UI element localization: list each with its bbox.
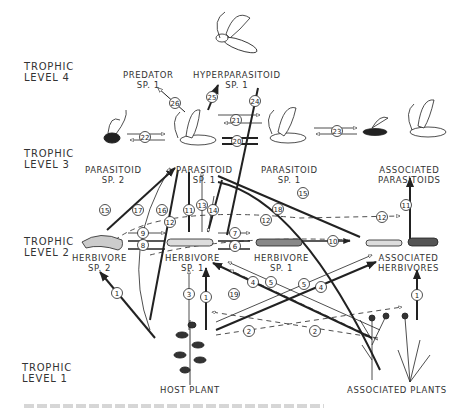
interaction-badge-11: 11 bbox=[401, 200, 412, 211]
parasitoid-sp1-left-line1: PARASITOID bbox=[176, 165, 233, 175]
svg-text:15: 15 bbox=[299, 190, 308, 198]
herbivore-sp1-left-line1: HERBIVORE bbox=[165, 253, 220, 263]
herbivore-sp2-line1: HERBIVORE bbox=[72, 253, 127, 263]
herbivore-sp2-caterpillar-icon bbox=[82, 235, 123, 250]
svg-text:14: 14 bbox=[209, 207, 218, 215]
host-plant-icon bbox=[174, 320, 206, 385]
svg-text:2: 2 bbox=[247, 328, 251, 336]
food-web-diagram: 1112234455678910111112121213141515161718… bbox=[0, 0, 474, 414]
interaction-badge-7: 7 bbox=[230, 228, 241, 239]
interaction-badge-3: 3 bbox=[184, 289, 195, 300]
svg-text:4: 4 bbox=[319, 284, 324, 292]
herbivore-sp1-left-line2: SP. 1 bbox=[165, 263, 220, 273]
interaction-badge-12: 12 bbox=[165, 217, 176, 228]
interaction-badge-8: 8 bbox=[138, 240, 149, 251]
svg-text:26: 26 bbox=[171, 100, 180, 108]
parasitoid-sp1-right-wasp-icon bbox=[268, 108, 306, 144]
interaction-badge-4: 4 bbox=[316, 282, 327, 293]
interaction-badge-12: 12 bbox=[261, 215, 272, 226]
associated-parasitoids-line1: ASSOCIATED bbox=[378, 165, 441, 175]
svg-text:11: 11 bbox=[185, 207, 194, 215]
interaction-badge-26: 26 bbox=[170, 98, 181, 109]
svg-text:13: 13 bbox=[198, 202, 207, 210]
svg-text:4: 4 bbox=[251, 279, 256, 287]
svg-text:10: 10 bbox=[329, 238, 338, 246]
associated-parasitoids-label: ASSOCIATED PARASITOIDS bbox=[378, 165, 441, 185]
associated-plants-label: ASSOCIATED PLANTS bbox=[347, 385, 447, 395]
associated-herbivores-label: ASSOCIATED HERBIVORES bbox=[378, 253, 439, 273]
interaction-badge-6: 6 bbox=[230, 241, 241, 252]
svg-text:15: 15 bbox=[101, 207, 110, 215]
svg-text:3: 3 bbox=[187, 291, 191, 299]
interaction-badge-15: 15 bbox=[100, 205, 111, 216]
interaction-badge-15: 15 bbox=[298, 188, 309, 199]
svg-text:5: 5 bbox=[302, 281, 306, 289]
svg-text:17: 17 bbox=[134, 207, 143, 215]
svg-text:24: 24 bbox=[251, 98, 260, 106]
herbivore-sp1-right-label: HERBIVORE SP. 1 bbox=[254, 253, 309, 273]
interaction-badge-5: 5 bbox=[266, 277, 277, 288]
svg-text:22: 22 bbox=[141, 134, 150, 142]
hyperparasitoid-line1: HYPERPARASITOID bbox=[193, 70, 281, 80]
interaction-badge-22: 22 bbox=[140, 132, 151, 143]
herbivore-sp1-right-caterpillar-icon bbox=[256, 239, 302, 246]
host-plant-line1: HOST PLANT bbox=[160, 385, 220, 395]
svg-text:25: 25 bbox=[208, 94, 217, 102]
svg-text:8: 8 bbox=[141, 242, 145, 250]
svg-text:1: 1 bbox=[115, 290, 119, 298]
interaction-badge-10: 10 bbox=[328, 236, 339, 247]
svg-text:20: 20 bbox=[233, 138, 242, 146]
predator-line1: PREDATOR bbox=[123, 70, 174, 80]
parasitoid-sp2-line1: PARASITOID bbox=[85, 165, 142, 175]
parasitoid-sp1-left-wasp-icon bbox=[174, 110, 216, 145]
parasitoid-sp2-wasp-icon bbox=[104, 110, 126, 143]
svg-text:9: 9 bbox=[141, 230, 145, 238]
interaction-badge-1: 1 bbox=[201, 292, 212, 303]
parasitoid-sp1-left-label: PARASITOID SP. 1 bbox=[176, 165, 233, 185]
svg-text:12: 12 bbox=[378, 214, 387, 222]
interaction-badge-24: 24 bbox=[250, 96, 261, 107]
host-plant-label: HOST PLANT bbox=[160, 385, 220, 395]
associated-parasitoid-light-wasp-icon bbox=[408, 100, 446, 137]
predator-line2: SP. 1 bbox=[123, 80, 174, 90]
interaction-badge-13: 13 bbox=[197, 200, 208, 211]
interaction-badge-1: 1 bbox=[112, 288, 123, 299]
svg-text:19: 19 bbox=[230, 291, 239, 299]
interaction-badge-4: 4 bbox=[248, 277, 259, 288]
interaction-badge-25: 25 bbox=[207, 92, 218, 103]
svg-text:7: 7 bbox=[233, 230, 237, 238]
interaction-badge-16: 16 bbox=[157, 205, 168, 216]
interaction-badge-20: 20 bbox=[232, 136, 243, 147]
associated-parasitoid-dark-wasp-icon bbox=[363, 117, 388, 135]
svg-text:11: 11 bbox=[402, 202, 411, 210]
interaction-badge-18: 18 bbox=[273, 204, 284, 215]
svg-text:12: 12 bbox=[166, 219, 175, 227]
parasitoid-sp2-label: PARASITOID SP. 2 bbox=[85, 165, 142, 185]
parasitoid-sp2-line2: SP. 2 bbox=[85, 175, 142, 185]
interaction-badge-2: 2 bbox=[310, 326, 321, 337]
parasitoid-sp1-left-line2: SP. 1 bbox=[176, 175, 233, 185]
interaction-badge-17: 17 bbox=[133, 205, 144, 216]
associated-parasitoids-line2: PARASITOIDS bbox=[378, 175, 441, 185]
figure-caption-blurred bbox=[24, 404, 324, 408]
associated-herbivore-caterpillar-icons bbox=[366, 238, 438, 246]
hyperparasitoid-label: HYPERPARASITOID SP. 1 bbox=[193, 70, 281, 90]
svg-text:2: 2 bbox=[313, 328, 317, 336]
svg-text:12: 12 bbox=[262, 217, 271, 225]
svg-text:23: 23 bbox=[333, 128, 342, 136]
associated-plants-line1: ASSOCIATED PLANTS bbox=[347, 385, 447, 395]
hyperparasitoid-line2: SP. 1 bbox=[193, 80, 281, 90]
interaction-badge-19: 19 bbox=[229, 289, 240, 300]
herbivore-sp1-left-caterpillar-icon bbox=[167, 239, 213, 246]
interaction-badge-12: 12 bbox=[377, 212, 388, 223]
svg-text:18: 18 bbox=[274, 206, 283, 214]
predator-label: PREDATOR SP. 1 bbox=[123, 70, 174, 90]
svg-text:21: 21 bbox=[232, 117, 241, 125]
herbivore-sp2-line2: SP. 2 bbox=[72, 263, 127, 273]
associated-herbivores-line2: HERBIVORES bbox=[378, 263, 439, 273]
herbivore-sp1-right-line2: SP. 1 bbox=[254, 263, 309, 273]
svg-text:16: 16 bbox=[158, 207, 167, 215]
interaction-badge-21: 21 bbox=[231, 115, 242, 126]
interaction-badge-23: 23 bbox=[332, 126, 343, 137]
interaction-badge-9: 9 bbox=[138, 228, 149, 239]
